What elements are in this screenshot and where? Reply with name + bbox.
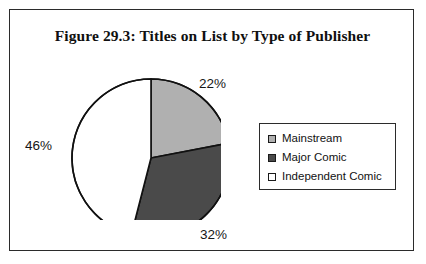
figure-frame: Figure 29.3: Titles on List by Type of P… — [9, 9, 414, 251]
legend-item-independent-comic[interactable]: Independent Comic — [268, 167, 395, 186]
legend-swatch-major-comic-icon — [268, 154, 276, 162]
pie-label-major-comic: 32% — [200, 227, 227, 242]
legend-label-major-comic: Major Comic — [282, 152, 347, 164]
pie-slice-group — [72, 79, 221, 220]
pie-chart — [63, 60, 221, 220]
pie-label-independent-comic: 46% — [25, 138, 52, 153]
legend-label-independent-comic: Independent Comic — [282, 171, 382, 183]
pie-label-mainstream: 22% — [199, 76, 226, 91]
figure-screenshot: Figure 29.3: Titles on List by Type of P… — [0, 0, 426, 264]
legend-swatch-independent-comic-icon — [268, 173, 276, 181]
legend-label-mainstream: Mainstream — [282, 133, 342, 145]
legend-swatch-mainstream-icon — [268, 135, 276, 143]
chart-legend: Mainstream Major Comic Independent Comic — [259, 123, 396, 190]
pie-chart-svg — [63, 60, 221, 220]
legend-item-major-comic[interactable]: Major Comic — [268, 148, 395, 167]
legend-item-mainstream[interactable]: Mainstream — [268, 129, 395, 148]
figure-title: Figure 29.3: Titles on List by Type of P… — [10, 27, 415, 45]
